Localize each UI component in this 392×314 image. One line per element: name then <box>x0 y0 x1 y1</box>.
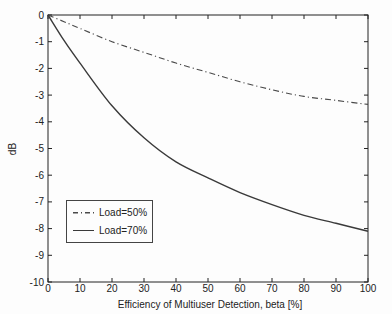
y-tick-label: 0 <box>38 10 44 21</box>
x-tick-label: 80 <box>298 283 310 294</box>
y-tick-label: -2 <box>35 63 44 74</box>
legend-solid-line-icon <box>73 230 94 232</box>
x-axis-label: Efficiency of Multiuser Detection, beta … <box>118 299 303 310</box>
curves <box>48 15 368 231</box>
x-tick-label: 70 <box>266 283 278 294</box>
y-tick-label: -10 <box>30 277 45 288</box>
x-tick-label: 20 <box>106 283 118 294</box>
y-tick-label: -8 <box>35 223 44 234</box>
legend-label-load70: Load=70% <box>99 225 147 236</box>
x-tick-label: 10 <box>74 283 86 294</box>
legend-item-load70: Load=70% <box>73 224 152 238</box>
y-axis-label: dB <box>7 143 18 156</box>
legend-label-load50: Load=50% <box>99 207 147 218</box>
y-tick-label: -7 <box>35 196 44 207</box>
y-tick-label: -9 <box>35 250 44 261</box>
x-tick-label: 30 <box>138 283 150 294</box>
legend-item-load50: Load=50% <box>73 206 152 220</box>
line-chart-figure: 01020304050607080901000-1-2-3-4-5-6-7-8-… <box>0 0 392 314</box>
x-tick-label: 50 <box>202 283 214 294</box>
y-tick-label: -6 <box>35 170 44 181</box>
x-tick-label: 60 <box>234 283 246 294</box>
curve-load-70- <box>48 15 368 231</box>
y-tick-label: -4 <box>35 116 44 127</box>
x-tick-label: 0 <box>45 283 51 294</box>
y-tick-label: -5 <box>35 143 44 154</box>
plot-canvas: 01020304050607080901000-1-2-3-4-5-6-7-8-… <box>0 0 392 314</box>
axes: 01020304050607080901000-1-2-3-4-5-6-7-8-… <box>30 10 377 295</box>
y-tick-label: -1 <box>35 36 44 47</box>
x-tick-label: 40 <box>170 283 182 294</box>
x-tick-label: 90 <box>330 283 342 294</box>
x-tick-label: 100 <box>360 283 377 294</box>
legend: Load=50% Load=70% <box>66 200 153 243</box>
curve-load-50- <box>48 15 368 104</box>
legend-dashdot-line-icon <box>73 212 94 214</box>
y-tick-label: -3 <box>35 90 44 101</box>
